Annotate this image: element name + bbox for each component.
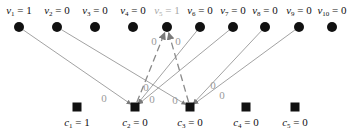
- variable-node-v1: [14, 22, 24, 32]
- variable-node-label-v2: v2 = 0: [44, 4, 70, 18]
- edge-label: 0: [143, 81, 149, 93]
- check-node-label-c3: c3 = 0: [177, 116, 203, 130]
- variable-node-label-v3: v3 = 0: [82, 4, 108, 18]
- check-node-label-c1: c1 = 1: [64, 116, 90, 130]
- edge-label: 0: [149, 93, 155, 105]
- tanner-graph: 00000000 v1 = 1v2 = 0v3 = 0v4 = 0v5 = 1v…: [0, 0, 356, 136]
- variable-node-v7: [228, 22, 238, 32]
- variable-node-v3: [90, 22, 100, 32]
- variable-node-label-v9: v9 = 0: [286, 4, 312, 18]
- edge-label: 0: [101, 92, 107, 104]
- check-node-c4: [242, 103, 251, 112]
- variable-node-label-v7: v7 = 0: [220, 4, 246, 18]
- edge-label: 0: [151, 35, 157, 47]
- check-node-c5: [291, 103, 300, 112]
- variable-node-label-v5: v5 = 1: [154, 4, 180, 18]
- edge-label: 0: [172, 94, 178, 106]
- check-node-c2: [131, 103, 140, 112]
- edge-label: 0: [219, 89, 225, 101]
- variable-node-label-v1: v1 = 1: [6, 4, 32, 18]
- variable-node-v6: [195, 22, 205, 32]
- check-node-label-c5: c5 = 0: [282, 116, 308, 130]
- variable-node-label-v4: v4 = 0: [120, 4, 146, 18]
- check-node-label-c4: c4 = 0: [233, 116, 259, 130]
- check-nodes: c1 = 1c2 = 0c3 = 0c4 = 0c5 = 0: [64, 103, 308, 131]
- edge-v9-c3: [194, 30, 295, 104]
- edge-v1-c2: [23, 30, 131, 104]
- variable-node-v10: [327, 22, 337, 32]
- check-node-label-c2: c2 = 0: [122, 116, 148, 130]
- edge-label: 0: [175, 35, 181, 47]
- variable-node-v9: [294, 22, 304, 32]
- edges: [23, 30, 295, 105]
- variable-nodes: v1 = 1v2 = 0v3 = 0v4 = 0v5 = 1v6 = 0v7 =…: [6, 4, 347, 32]
- variable-node-label-v6: v6 = 0: [187, 4, 213, 18]
- check-node-c3: [186, 103, 195, 112]
- variable-node-label-v8: v8 = 0: [252, 4, 278, 18]
- edge-labels: 00000000: [101, 35, 225, 106]
- variable-node-label-v10: v10 = 0: [317, 4, 347, 18]
- check-node-c1: [73, 103, 82, 112]
- variable-node-v2: [52, 22, 62, 32]
- edge-label: 0: [210, 79, 216, 91]
- edge-v8-c3: [193, 31, 261, 104]
- variable-node-v8: [260, 22, 270, 32]
- variable-node-v4: [128, 22, 138, 32]
- variable-node-v5: [162, 22, 172, 32]
